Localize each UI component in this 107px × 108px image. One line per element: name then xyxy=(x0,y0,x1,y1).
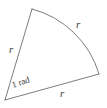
sector-diagram-svg: r r r 1 rad xyxy=(0,0,107,108)
sector-arc xyxy=(32,9,99,74)
bottom-radius-label: r xyxy=(60,87,65,99)
angle-label: 1 rad xyxy=(10,74,31,90)
left-radius-label: r xyxy=(9,43,14,55)
sector-figure: r r r 1 rad xyxy=(0,0,107,108)
arc-length-label: r xyxy=(76,18,81,30)
